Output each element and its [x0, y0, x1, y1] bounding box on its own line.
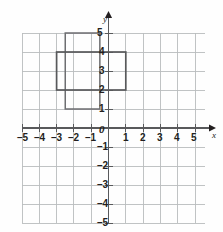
y-tick-label-2: 2	[99, 85, 105, 95]
x-tick-label-2: 2	[140, 133, 146, 143]
coordinate-grid-svg	[0, 0, 223, 232]
x-tick-label-1: 1	[123, 133, 129, 143]
y-axis-title: y	[103, 15, 107, 24]
y-tick-label--2: –2	[97, 161, 108, 171]
origin-label: 0	[99, 124, 105, 135]
y-tick-label-1: 1	[99, 104, 105, 114]
x-tick-label--1: –1	[85, 133, 96, 143]
x-tick-label-3: 3	[157, 133, 163, 143]
y-tick-label--4: –4	[97, 199, 108, 209]
x-axis-title: x	[212, 131, 216, 140]
y-tick-label-5: 5	[97, 28, 103, 38]
y-tick-label--5: –5	[97, 218, 108, 228]
x-tick-label--4: –4	[34, 133, 45, 143]
y-tick-label--3: –3	[97, 180, 108, 190]
y-tick-label-4: 4	[99, 47, 105, 57]
x-tick-label--3: –3	[51, 133, 62, 143]
x-tick-label--5: –5	[17, 133, 28, 143]
x-tick-label-5: 5	[191, 133, 197, 143]
x-tick-label-4: 4	[174, 133, 180, 143]
coordinate-plane-figure: –5 –4 –3 –2 –1 1 2 3 4 5 5 4 3 2 1 –1 –2…	[0, 0, 223, 232]
y-tick-label-3: 3	[99, 66, 105, 76]
y-tick-label--1: –1	[97, 142, 108, 152]
axis-lines	[22, 18, 209, 223]
x-tick-label--2: –2	[68, 133, 79, 143]
